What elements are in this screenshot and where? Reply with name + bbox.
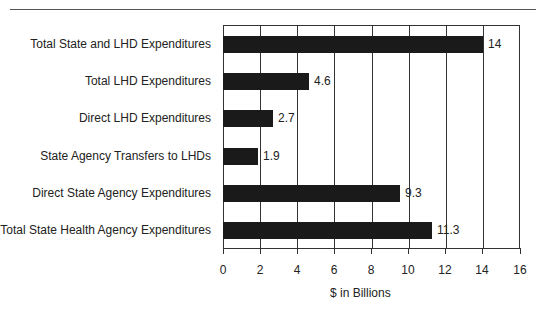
value-label: 4.6 [314,74,331,88]
x-tick-label: 16 [505,263,535,277]
x-tick [408,248,409,254]
category-label: Total State Health Agency Expenditures [0,223,211,237]
value-label: 14 [488,37,501,51]
x-tick-label: 12 [430,263,460,277]
top-rule [10,9,536,10]
gridline [372,26,373,248]
x-tick-label: 2 [245,263,275,277]
x-tick-label: 8 [356,263,386,277]
x-tick [334,248,335,254]
bar [223,110,273,127]
bar [223,185,400,202]
gridline [409,26,410,248]
plot-area [223,25,520,248]
category-label: Direct LHD Expenditures [79,111,211,125]
category-label: Total LHD Expenditures [85,74,211,88]
category-label: Direct State Agency Expenditures [32,186,211,200]
x-axis-label: $ in Billions [330,286,391,300]
value-label: 9.3 [405,186,422,200]
category-label: State Agency Transfers to LHDs [40,149,211,163]
x-tick-label: 6 [319,263,349,277]
x-tick-label: 10 [393,263,423,277]
x-tick [520,248,521,254]
x-tick [482,248,483,254]
bar [223,222,432,239]
gridline [334,26,335,248]
x-tick [445,248,446,254]
value-label: 2.7 [278,111,295,125]
x-tick-label: 4 [282,263,312,277]
bar [223,73,309,90]
x-axis [223,248,521,249]
gridline [446,26,447,248]
value-label: 1.9 [263,149,280,163]
x-tick [223,248,224,254]
x-tick [371,248,372,254]
category-label: Total State and LHD Expenditures [30,37,211,51]
gridline [297,26,298,248]
bar [223,148,258,165]
x-tick [297,248,298,254]
gridline [483,26,484,248]
bar [223,36,483,53]
x-tick-label: 14 [467,263,497,277]
x-tick-label: 0 [208,263,238,277]
value-label: 11.3 [437,223,459,237]
x-tick [260,248,261,254]
gridline [260,26,261,248]
